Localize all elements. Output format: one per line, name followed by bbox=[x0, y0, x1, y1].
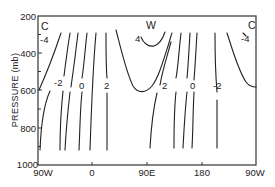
y-tick-600: 600 bbox=[20, 85, 36, 96]
x-tick-90w-right: 90W bbox=[245, 167, 265, 178]
contour-label-0-left: 0 bbox=[79, 80, 84, 91]
x-tick-180: 180 bbox=[194, 167, 210, 178]
y-tick-200: 200 bbox=[20, 11, 36, 22]
warm-label: W bbox=[146, 19, 156, 31]
contour-2b-upper bbox=[106, 33, 107, 78]
contour-0c-lower bbox=[174, 92, 176, 148]
contour-m2-right-lower bbox=[192, 92, 194, 148]
contour-label-2-right: 2 bbox=[162, 80, 167, 91]
contour-label-0-right: 0 bbox=[190, 80, 195, 91]
contour-lines bbox=[39, 30, 256, 150]
contour-0d-lower bbox=[183, 92, 187, 148]
contour-0b-lower bbox=[79, 92, 82, 150]
contour-label-m2-left: -2 bbox=[54, 77, 62, 88]
cold-label-right: C bbox=[248, 19, 256, 31]
contour-0a-lower bbox=[65, 92, 70, 150]
x-tick-0: 0 bbox=[89, 167, 94, 178]
contour-4-warm bbox=[141, 32, 165, 46]
contour-2a-line bbox=[90, 33, 96, 150]
contour-0b-upper bbox=[82, 33, 87, 78]
y-tick-400: 400 bbox=[20, 48, 36, 59]
x-tick-90w-left: 90W bbox=[33, 167, 53, 178]
contour-2-right-upper bbox=[160, 42, 171, 85]
contour-label-m2-right: -2 bbox=[213, 80, 221, 91]
x-tick-90e: 90E bbox=[139, 167, 156, 178]
contour-m2-left-upper bbox=[64, 33, 70, 76]
contour-0d-upper bbox=[187, 33, 190, 78]
contour-label-m4-left: -4 bbox=[40, 34, 48, 45]
cold-label-left: C bbox=[41, 20, 49, 32]
contour-m2-right-upper bbox=[194, 33, 197, 80]
contour-left-lower bbox=[40, 91, 50, 150]
contour-label-2-left: 2 bbox=[104, 80, 109, 91]
contour-2-right-lower bbox=[150, 93, 157, 148]
contour-label-m4-right: -4 bbox=[241, 33, 249, 44]
contour-chart: 200 400 600 800 1000 PRESSURE (mb) 90W 0… bbox=[0, 0, 275, 187]
y-tick-800: 800 bbox=[20, 123, 36, 134]
contour-label-4-center: 4 bbox=[135, 33, 140, 44]
contour-0c-upper bbox=[176, 33, 181, 78]
contour-m2-left-lower bbox=[60, 91, 63, 150]
y-axis-title: PRESSURE (mb) bbox=[10, 53, 20, 127]
contour-0a-upper bbox=[71, 33, 78, 87]
